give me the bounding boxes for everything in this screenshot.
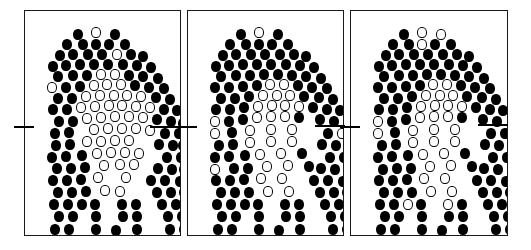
filled-dot <box>252 80 261 91</box>
filled-dot <box>154 139 163 150</box>
filled-dot <box>78 39 87 50</box>
filled-dot <box>339 152 343 163</box>
open-dot <box>408 137 417 148</box>
filled-dot <box>130 80 139 91</box>
filled-dot <box>49 199 58 210</box>
filled-dot <box>81 186 90 197</box>
open-dot <box>47 82 56 93</box>
open-dot <box>90 101 99 112</box>
open-dot <box>96 112 105 123</box>
filled-dot <box>226 199 235 210</box>
open-dot <box>256 173 265 184</box>
filled-dot <box>144 82 153 93</box>
filled-dot <box>224 151 233 162</box>
filled-dot <box>309 175 318 186</box>
open-dot <box>426 186 435 197</box>
panel-3 <box>350 10 508 236</box>
open-dot <box>117 100 126 111</box>
filled-dot <box>401 59 410 70</box>
filled-dot <box>402 174 411 185</box>
open-dot <box>373 116 382 127</box>
filled-dot <box>48 104 57 115</box>
filled-dot <box>374 175 383 186</box>
filled-dot <box>62 175 71 186</box>
filled-dot <box>399 29 408 40</box>
filled-dot <box>68 70 77 81</box>
filled-dot <box>225 104 234 115</box>
filled-dot <box>326 211 335 222</box>
filled-dot <box>373 82 382 93</box>
filled-dot <box>503 211 507 222</box>
filled-dot <box>387 151 396 162</box>
filled-dot <box>502 152 507 163</box>
open-dot <box>89 80 98 91</box>
filled-dot <box>236 29 245 40</box>
filled-dot <box>392 163 401 174</box>
filled-dot <box>275 49 284 60</box>
filled-dot <box>297 148 306 159</box>
open-dot <box>267 100 276 111</box>
filled-dot <box>394 70 403 81</box>
filled-dot <box>401 114 410 125</box>
open-dot <box>106 147 115 158</box>
open-dot <box>95 90 104 101</box>
filled-dot <box>91 224 100 235</box>
panel-1-lattice <box>25 11 180 235</box>
filled-dot <box>471 102 480 113</box>
open-dot <box>253 101 262 112</box>
filled-dot <box>438 49 447 60</box>
open-dot <box>245 137 254 148</box>
open-dot <box>100 185 109 196</box>
filled-dot <box>168 140 177 151</box>
open-dot <box>134 148 143 159</box>
filled-dot <box>394 211 403 222</box>
filled-dot <box>68 49 77 60</box>
open-dot <box>265 79 274 90</box>
filled-dot <box>492 187 501 198</box>
filled-dot <box>53 93 62 104</box>
open-dot <box>93 172 102 183</box>
filled-dot <box>259 69 268 80</box>
filled-dot <box>91 211 100 222</box>
filled-dot <box>224 116 233 127</box>
filled-dot <box>212 199 221 210</box>
filled-dot <box>47 152 56 163</box>
filled-dot <box>76 174 85 185</box>
filled-dot <box>77 199 86 210</box>
panel-2-left-reference-tick <box>177 126 197 128</box>
filled-dot <box>376 224 385 235</box>
filled-dot <box>167 164 176 175</box>
filled-dot <box>308 102 317 113</box>
filled-dot <box>216 71 225 82</box>
open-dot <box>122 90 131 101</box>
filled-dot <box>387 82 396 93</box>
filled-dot <box>409 49 418 60</box>
filled-dot <box>295 224 304 235</box>
open-dot <box>115 159 124 170</box>
filled-dot <box>97 49 106 60</box>
filled-dot <box>146 62 155 73</box>
filled-dot <box>294 112 303 123</box>
filled-dot <box>374 61 383 72</box>
filled-dot <box>64 127 73 138</box>
filled-dot <box>254 39 263 50</box>
filled-dot <box>159 83 168 94</box>
filled-dot <box>388 39 397 50</box>
filled-dot <box>387 116 396 127</box>
filled-dot <box>437 225 446 235</box>
filled-dot <box>254 224 263 235</box>
filled-dot <box>211 175 220 186</box>
filled-dot <box>505 224 507 235</box>
open-dot <box>408 125 417 136</box>
filled-dot <box>253 199 262 210</box>
filled-dot <box>240 150 249 161</box>
filled-dot <box>323 175 332 186</box>
open-dot <box>450 136 459 147</box>
filled-dot <box>55 50 64 61</box>
open-dot <box>443 111 452 122</box>
filled-dot <box>377 140 386 151</box>
filled-dot <box>68 116 77 127</box>
filled-dot <box>458 224 467 235</box>
filled-dot <box>472 62 481 73</box>
open-dot <box>121 172 130 183</box>
